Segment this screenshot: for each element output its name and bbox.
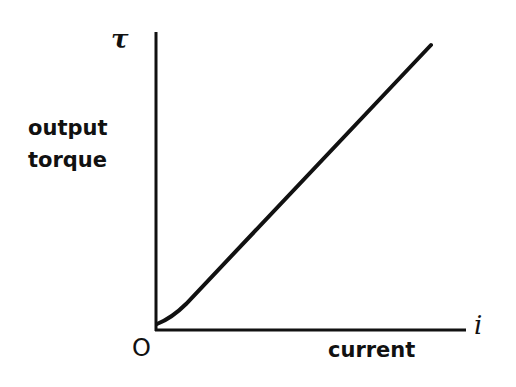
y-axis-label-line1: output	[28, 112, 107, 144]
torque-curve	[157, 45, 431, 324]
x-axis-label: current	[328, 338, 415, 362]
diagram-graphic	[0, 0, 516, 387]
origin-label: O	[132, 334, 151, 362]
x-axis-symbol: i	[474, 310, 482, 340]
y-axis-label-line2: torque	[28, 144, 107, 176]
torque-current-diagram: τ output torque O i current	[0, 0, 516, 387]
y-axis-label: output torque	[28, 112, 107, 176]
y-axis-symbol: τ	[111, 24, 129, 54]
